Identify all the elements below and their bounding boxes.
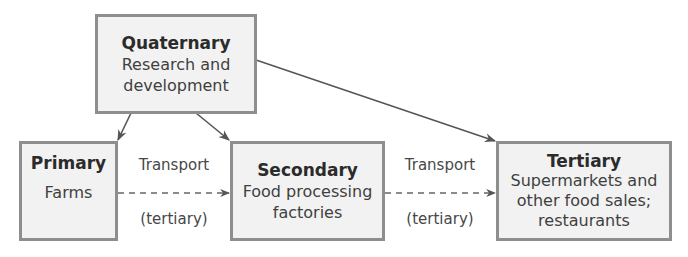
node-primary-title: Primary <box>31 152 106 174</box>
node-tertiary-title: Tertiary <box>547 152 621 171</box>
node-quaternary: Quaternary Research and development <box>95 14 257 114</box>
node-quaternary-line-1: Research and <box>122 54 231 75</box>
edge-label-primary-secondary-top: Transport <box>126 156 222 174</box>
node-secondary: Secondary Food processing factories <box>230 141 385 241</box>
node-primary: Primary Farms <box>19 141 118 241</box>
arrow-quaternary-to-secondary <box>196 113 229 140</box>
edge-label-secondary-tertiary-top: Transport <box>392 156 488 174</box>
edge-label-primary-secondary-bottom: (tertiary) <box>126 210 222 228</box>
node-tertiary-line-3: restaurants <box>538 211 630 231</box>
node-quaternary-line-2: development <box>123 75 229 96</box>
arrow-quaternary-to-primary <box>118 113 131 140</box>
node-secondary-title: Secondary <box>257 159 358 181</box>
arrow-quaternary-to-tertiary <box>256 60 495 141</box>
node-secondary-line-2: factories <box>273 202 343 223</box>
node-quaternary-title: Quaternary <box>121 32 230 54</box>
edge-label-secondary-tertiary-bottom: (tertiary) <box>392 210 488 228</box>
node-tertiary: Tertiary Supermarkets and other food sal… <box>496 141 672 241</box>
node-primary-line-1: Farms <box>45 182 93 203</box>
node-tertiary-line-1: Supermarkets and <box>511 171 658 191</box>
node-tertiary-line-2: other food sales; <box>517 191 651 211</box>
node-secondary-line-1: Food processing <box>243 181 373 202</box>
